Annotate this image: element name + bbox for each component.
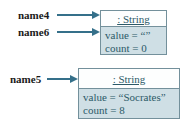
object-type-label: : String (113, 73, 146, 85)
object-header: : String (79, 69, 179, 89)
string-object-socrates: : String value = “Socrates” count = 8 (78, 68, 180, 119)
object-type-label: : String (117, 13, 150, 25)
object-body: value = “Socrates” count = 8 (79, 89, 179, 118)
object-reference-diagram: name4 name6 name5 : String value = “” co… (0, 0, 186, 124)
arrow-shaft (57, 14, 93, 16)
reference-label-name5: name5 (10, 73, 41, 85)
field-value: value = “Socrates” (83, 91, 177, 104)
string-object-empty: : String value = “” count = 0 (100, 10, 167, 55)
arrow-shaft (47, 78, 71, 80)
field-count: count = 8 (83, 104, 177, 117)
reference-label-name6: name6 (18, 26, 49, 38)
arrow-head (92, 11, 100, 19)
object-header: : String (101, 11, 166, 27)
reference-label-name4: name4 (18, 9, 49, 21)
field-value: value = “” (105, 29, 164, 42)
object-body: value = “” count = 0 (101, 27, 166, 54)
arrow-shaft (57, 31, 93, 33)
arrow-head (92, 28, 100, 36)
field-count: count = 0 (105, 42, 164, 55)
arrow-head (70, 75, 78, 83)
